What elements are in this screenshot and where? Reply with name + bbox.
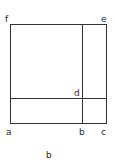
figure-caption: b: [46, 150, 52, 160]
label-f: f: [5, 14, 9, 24]
label-d: d: [74, 88, 80, 98]
label-b: b: [79, 127, 85, 137]
label-e: e: [101, 14, 107, 24]
diagram-figure: f e d a b c b: [0, 0, 114, 166]
label-a: a: [6, 127, 12, 137]
outer-square: [11, 25, 107, 124]
label-c: c: [101, 127, 106, 137]
